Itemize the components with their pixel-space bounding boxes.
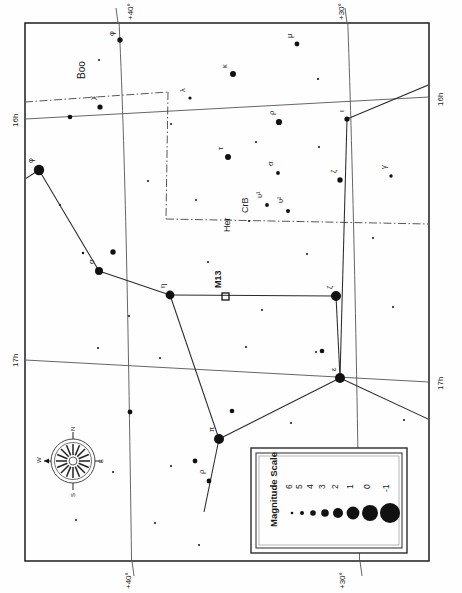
star-faint-24 — [318, 146, 320, 148]
compass-label-south: S — [70, 493, 76, 497]
legend-mag-6: 6 — [284, 484, 294, 489]
star-rho-her — [207, 479, 212, 484]
label-rho-her: ρ — [197, 470, 206, 474]
legend-dot-1 — [347, 507, 360, 520]
star-zeta-her — [331, 291, 341, 301]
star-faint-9 — [372, 237, 374, 239]
star-rho-upper — [276, 119, 282, 125]
star-unlabeled-1 — [68, 115, 73, 120]
star-faint-8 — [306, 253, 308, 255]
star-phi-boo — [117, 37, 122, 42]
constellation-label-boo: Boo — [76, 61, 87, 79]
star-faint-11 — [97, 347, 99, 349]
star-faint-25 — [248, 220, 250, 222]
star-sigma-her — [95, 267, 103, 275]
label-pi-her: π — [207, 427, 216, 432]
star-faint-12 — [159, 357, 161, 359]
ra-label-left-16h: 16h — [11, 114, 20, 127]
constellation-label-crb: CrB — [240, 198, 250, 214]
star-faint-26 — [195, 199, 197, 201]
legend-dot-4 — [310, 510, 316, 516]
legend-mag-5: 5 — [294, 484, 304, 489]
star-tau — [225, 154, 231, 160]
star-unlabeled-3 — [193, 459, 198, 464]
legend-mag-1: 1 — [345, 484, 355, 489]
label-upsilon-1: υ¹ — [255, 191, 264, 198]
legend-title: Magnitude Scale — [268, 452, 279, 527]
star-chart-root: φ φ χ λ μ κ ε ι ρ τ σ γ υ¹ υ² ζ σ η ζ ε … — [0, 0, 462, 593]
star-faint-16 — [75, 519, 77, 521]
star-faint-2 — [317, 78, 319, 80]
magnitude-scale-legend: Magnitude Scale 6 5 4 3 2 1 0 -1 — [251, 448, 407, 553]
label-tau: τ — [216, 147, 225, 150]
star-mu — [295, 42, 300, 47]
star-upsilon-2 — [286, 209, 290, 213]
legend-mag-2: 2 — [330, 484, 340, 489]
star-faint-15 — [112, 471, 114, 473]
star-faint-13 — [245, 346, 247, 348]
star-sigma-upper — [276, 171, 280, 175]
star-unlabeled-6 — [128, 410, 133, 415]
label-kappa: κ — [220, 64, 229, 68]
constellation-label-her: Her — [222, 217, 232, 232]
star-chi — [97, 104, 102, 109]
m13-label: M13 — [213, 270, 223, 288]
star-lambda — [188, 96, 191, 99]
star-faint-14 — [170, 465, 172, 467]
dec-label-top-right: +30° — [337, 3, 346, 20]
star-faint-28 — [315, 351, 317, 353]
star-faint-22 — [170, 123, 172, 125]
compass-label-west: W — [36, 457, 42, 463]
legend-dot-2 — [333, 508, 343, 518]
star-faint-23 — [98, 59, 100, 61]
label-phi-boo: φ — [107, 31, 116, 36]
star-unlabeled-4 — [320, 349, 325, 354]
label-gamma: γ — [379, 165, 388, 169]
star-faint-21 — [255, 141, 257, 143]
label-upsilon-2: υ² — [276, 196, 285, 203]
label-rho-upper: ρ — [267, 111, 276, 115]
star-faint-19 — [290, 422, 292, 424]
label-chi: χ — [88, 96, 97, 100]
legend-mag-neg1: -1 — [381, 484, 391, 492]
star-pi-her — [214, 434, 224, 444]
star-gamma — [389, 174, 392, 177]
legend-mag-3: 3 — [317, 484, 327, 489]
label-eta-her: η — [158, 284, 167, 288]
star-faint-5 — [147, 180, 149, 182]
star-kappa — [230, 71, 236, 77]
legend-mag-4: 4 — [305, 484, 315, 489]
label-lambda: λ — [178, 88, 187, 92]
ra-label-right-16h: 16h — [436, 93, 445, 106]
star-faint-1 — [82, 252, 84, 254]
legend-dot-neg1 — [380, 503, 400, 523]
star-faint-6 — [207, 261, 209, 263]
dec-label-bottom-right: +30° — [338, 572, 347, 589]
ra-label-left-17h: 17h — [11, 354, 20, 367]
legend-dot-0 — [362, 505, 378, 521]
star-faint-18 — [198, 544, 200, 546]
star-faint-7 — [261, 309, 263, 311]
star-faint-4 — [59, 204, 61, 206]
legend-dot-6 — [291, 512, 294, 515]
compass-label-east: E — [98, 459, 104, 463]
star-iota — [344, 116, 349, 121]
label-mu: μ — [285, 34, 294, 38]
dec-label-bottom-left: +40° — [124, 572, 133, 589]
star-phi-her — [34, 165, 44, 175]
star-epsilon-her — [335, 373, 345, 383]
label-sigma-upper: σ — [266, 161, 275, 166]
star-unlabeled-5 — [230, 409, 235, 414]
ra-label-right-17h: 17h — [436, 377, 445, 390]
label-phi-her: φ — [26, 158, 35, 163]
star-faint-27 — [128, 315, 130, 317]
star-eta-her — [166, 291, 175, 300]
star-zeta-small — [337, 177, 342, 182]
star-faint-17 — [154, 522, 156, 524]
star-faint-10 — [392, 306, 394, 308]
star-unlabeled-2 — [110, 249, 115, 254]
label-sigma-her: σ — [87, 259, 96, 264]
dec-label-top-left: +40° — [126, 3, 135, 20]
star-upsilon-1 — [265, 203, 269, 207]
star-faint-20 — [403, 419, 405, 421]
